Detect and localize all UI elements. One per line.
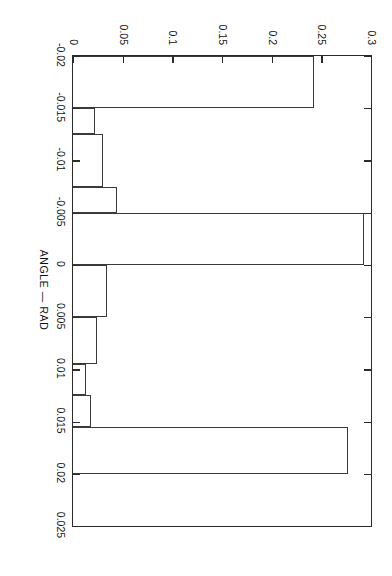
rotated-figure-container: BLINK ANGLE — RAD -0.02-0.015-0.01-0.005… [0, 0, 392, 576]
x-tick [364, 56, 371, 57]
x-tick [73, 317, 80, 318]
x-tick [364, 422, 371, 423]
x-tick [73, 369, 80, 370]
x-tick-label: 0.025 [55, 512, 67, 538]
x-tick-label: -0.02 [55, 43, 67, 67]
y-tick [371, 56, 372, 63]
x-tick [364, 526, 371, 527]
x-tick [73, 422, 80, 423]
histogram-bar [73, 108, 95, 134]
x-tick-label: 0.015 [55, 407, 67, 433]
histogram-bar [73, 317, 97, 364]
histogram-bar [73, 265, 107, 317]
y-tick [321, 56, 322, 63]
y-tick-label: 0.25 [316, 25, 328, 45]
x-tick-label: -0.005 [55, 197, 67, 227]
y-tick-label: 0.3 [366, 30, 378, 45]
y-tick-label: 0.05 [118, 25, 130, 45]
x-tick [73, 108, 80, 109]
histogram-bar [73, 56, 314, 108]
x-tick [73, 160, 80, 161]
x-tick-label: 0.005 [55, 303, 67, 329]
x-tick [364, 317, 371, 318]
histogram-bar [73, 213, 364, 265]
x-tick-label: -0.015 [55, 92, 67, 122]
x-tick-label: 0 [55, 261, 67, 267]
x-tick-label: 0.01 [55, 358, 67, 378]
x-tick [73, 474, 80, 475]
y-tick-label: 0.15 [217, 25, 229, 45]
y-tick-label: 0 [68, 39, 80, 45]
x-tick [73, 213, 80, 214]
x-tick-label: 0.02 [55, 463, 67, 483]
x-tick [364, 265, 371, 266]
plot-area [72, 55, 372, 527]
y-tick [272, 56, 273, 63]
y-tick [172, 56, 173, 63]
y-tick [222, 56, 223, 63]
histogram-bar [73, 427, 348, 474]
x-tick-label: -0.01 [55, 147, 67, 171]
x-tick [73, 526, 80, 527]
x-tick [364, 108, 371, 109]
y-tick [73, 56, 74, 63]
x-tick [364, 369, 371, 370]
x-tick [73, 265, 80, 266]
x-tick [364, 213, 371, 214]
y-tick [123, 56, 124, 63]
y-tick-label: 0.1 [167, 30, 179, 45]
x-tick [364, 160, 371, 161]
x-tick [364, 474, 371, 475]
y-tick-label: 0.2 [267, 30, 279, 45]
histogram-bar [73, 187, 117, 213]
x-axis-title: ANGLE — RAD [38, 250, 50, 331]
